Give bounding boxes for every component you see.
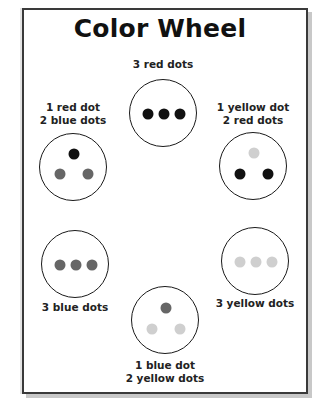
label-lower-left: 3 blue dots	[25, 301, 125, 314]
yellow-dot	[251, 257, 262, 268]
red-dot	[69, 149, 80, 160]
yellow-dot	[249, 148, 260, 159]
yellow-dot	[147, 324, 158, 335]
blue-dot	[87, 260, 98, 271]
blue-dot	[83, 169, 94, 180]
label-lower-right: 3 yellow dots	[205, 297, 305, 310]
label-line: 1 blue dot	[115, 359, 215, 372]
label-line: 2 yellow dots	[115, 372, 215, 385]
yellow-dot	[175, 324, 186, 335]
label-line: 1 red dot	[23, 101, 123, 114]
circle-bottom	[131, 286, 199, 354]
label-line: 3 blue dots	[25, 301, 125, 314]
label-line: 3 red dots	[113, 58, 213, 71]
label-line: 3 yellow dots	[205, 297, 305, 310]
red-dot	[175, 109, 186, 120]
blue-dot	[161, 303, 172, 314]
red-dot	[235, 169, 246, 180]
red-dot	[143, 109, 154, 120]
label-upper-right: 1 yellow dot 2 red dots	[203, 101, 303, 127]
blue-dot	[71, 260, 82, 271]
label-bottom: 1 blue dot 2 yellow dots	[115, 359, 215, 385]
red-dot	[159, 109, 170, 120]
blue-dot	[55, 169, 66, 180]
red-dot	[263, 169, 274, 180]
blue-dot	[55, 260, 66, 271]
circle-upper-right	[219, 132, 287, 200]
circle-upper-left	[39, 133, 107, 201]
label-line: 1 yellow dot	[203, 101, 303, 114]
label-upper-left: 1 red dot 2 blue dots	[23, 101, 123, 127]
label-line: 2 blue dots	[23, 114, 123, 127]
page-title: Color Wheel	[0, 14, 320, 43]
circle-top	[129, 79, 197, 147]
label-line: 2 red dots	[203, 114, 303, 127]
circle-lower-left	[41, 230, 109, 298]
label-top: 3 red dots	[113, 58, 213, 71]
yellow-dot	[267, 257, 278, 268]
yellow-dot	[235, 257, 246, 268]
circle-lower-right	[221, 227, 289, 295]
